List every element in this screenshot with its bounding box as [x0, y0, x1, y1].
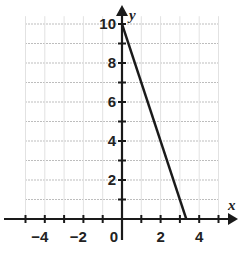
y-tick-label: 6 — [108, 93, 116, 110]
y-axis-arrow-icon — [116, 5, 128, 16]
tick-labels: −4−2024246810 — [31, 15, 204, 245]
x-tick-label: −4 — [31, 228, 49, 245]
x-axis-arrow-icon — [228, 213, 238, 225]
x-tick-label: 2 — [156, 228, 164, 245]
x-tick-label: 0 — [110, 228, 118, 245]
y-tick-label: 8 — [108, 54, 116, 71]
x-tick-label: 4 — [195, 228, 204, 245]
y-tick-label: 2 — [108, 171, 116, 188]
y-axis-label: y — [127, 7, 136, 23]
y-tick-label: 10 — [99, 15, 116, 32]
x-axis-label: x — [227, 197, 236, 213]
coordinate-plane: −4−2024246810 x y — [0, 0, 242, 253]
x-tick-label: −2 — [70, 228, 87, 245]
y-tick-label: 4 — [108, 132, 117, 149]
